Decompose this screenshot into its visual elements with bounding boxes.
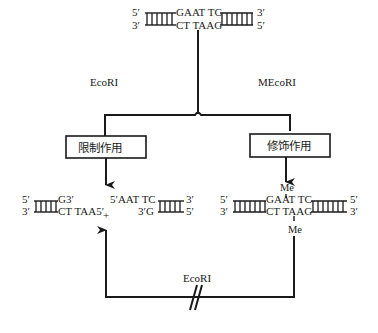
right-fragment-top-sequence: 5′AAT TC	[110, 193, 156, 205]
restriction-box-label: 限制作用	[78, 141, 122, 155]
left-fragment-bottom-sequence: CT TAA5′	[58, 205, 104, 217]
modification-box: 修饰作用	[250, 134, 330, 157]
top-dna-right-bottom-end: 5′	[257, 19, 265, 31]
methyl-bottom-label: Me	[288, 224, 302, 235]
methylated-dna: Me 5′ 3′ GAAT TC CT TAAG 5′ 3′ Me	[220, 182, 358, 235]
methylated-dna-top-sequence: GAAT TC	[266, 193, 312, 205]
left-fragment-top-sequence: G3′	[58, 193, 74, 205]
modification-box-label: 修饰作用	[267, 139, 311, 153]
top-dna-right-top-end: 3′	[257, 6, 265, 18]
left-fragment-top-end: 5′	[22, 193, 30, 205]
methylated-dna-left-bottom-end: 3′	[220, 205, 228, 217]
top-dna-bottom-sequence: CT TAAG	[176, 19, 222, 31]
top-dna-left-ladder	[145, 13, 176, 25]
left-enzyme-label: EcoRI	[90, 76, 118, 88]
top-dna-left-top-end: 5′	[132, 6, 140, 18]
cut-product-right-fragment: 5′AAT TC 3′G 3′ 5′	[110, 193, 194, 217]
restriction-box: 限制作用	[66, 136, 146, 158]
top-dna-left-bottom-end: 3′	[132, 19, 140, 31]
top-dna-right-ladder	[220, 13, 253, 25]
plus-sign: +	[103, 209, 109, 221]
feedback-arrow	[106, 230, 294, 297]
ecori-restriction-modification-diagram: 5′ 3′ GAAT TC CT TAAG 3′ 5′	[0, 0, 378, 333]
feedback-loop	[106, 230, 294, 310]
methyl-top-label: Me	[280, 182, 294, 193]
right-fragment-top-end: 3′	[186, 193, 194, 205]
right-fragment-bottom-sequence: 3′G	[138, 205, 154, 217]
methylated-dna-right-bottom-end: 3′	[350, 205, 358, 217]
top-dna: 5′ 3′ GAAT TC CT TAAG 3′ 5′	[132, 6, 265, 31]
right-fragment-bottom-end: 5′	[186, 205, 194, 217]
methylated-dna-left-top-end: 5′	[220, 193, 228, 205]
top-dna-top-sequence: GAAT TC	[176, 6, 222, 18]
left-fragment-bottom-end: 3′	[22, 205, 30, 217]
cut-product-left-fragment: 5′ 3′ G3′ CT TAA5′	[22, 193, 104, 217]
methylated-dna-right-top-end: 5′	[350, 193, 358, 205]
right-enzyme-label: MEcoRI	[258, 76, 296, 88]
feedback-enzyme-label: EcoRI	[183, 272, 211, 284]
methylated-dna-bottom-sequence: CT TAAG	[266, 205, 312, 217]
